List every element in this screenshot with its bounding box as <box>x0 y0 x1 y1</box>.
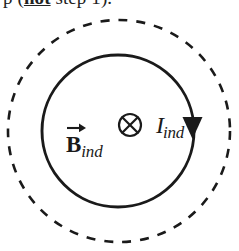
i-subscript: ind <box>163 123 184 142</box>
b-subscript: ind <box>81 142 102 161</box>
figure-canvas <box>0 0 239 251</box>
physics-figure <box>0 0 239 251</box>
label-i-induced: Iind <box>156 113 185 137</box>
vector-arrow-icon <box>66 121 86 132</box>
circled-times-icon <box>119 114 141 136</box>
b-vector-wrap: B <box>66 133 81 156</box>
label-b-induced: B ind <box>66 133 102 156</box>
current-direction-arrowhead <box>183 117 203 139</box>
b-symbol: B <box>66 132 81 157</box>
